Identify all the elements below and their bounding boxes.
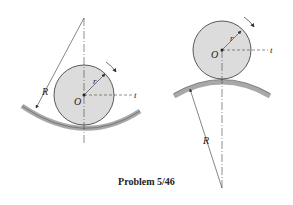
rotation-arrow-left [106, 62, 116, 72]
label-r-right: r [230, 33, 234, 43]
rotation-arrow-right [244, 17, 254, 27]
figure-right-convex: R r O t [174, 17, 273, 188]
label-t-right: t [270, 45, 273, 55]
label-O-right: O [211, 49, 218, 60]
center-point-right [221, 49, 224, 52]
label-R-right: R [202, 135, 209, 146]
label-R-left: R [41, 86, 48, 97]
diagram-canvas: R r O t R r O t [0, 0, 293, 205]
center-point-left [83, 94, 86, 97]
figure-caption: Problem 5/46 [0, 176, 293, 187]
label-O-left: O [74, 96, 81, 107]
label-t-left: t [134, 90, 137, 100]
label-r-left: r [93, 76, 97, 86]
figure-left-concave: R r O t [22, 18, 140, 143]
